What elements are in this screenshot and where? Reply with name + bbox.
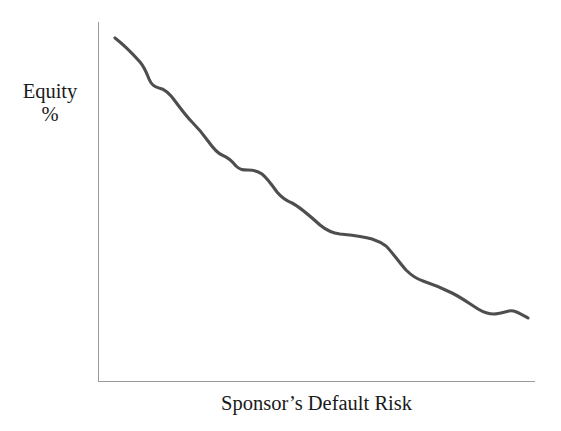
- y-axis-label: Equity %: [8, 80, 92, 126]
- equity-decline-curve: [115, 38, 528, 318]
- y-axis-label-line-2: %: [8, 103, 92, 126]
- y-axis-label-line-1: Equity: [8, 80, 92, 103]
- x-axis-label: Sponsor’s Default Risk: [98, 392, 535, 415]
- chart-canvas: [0, 0, 561, 431]
- chart-figure: Equity % Sponsor’s Default Risk: [0, 0, 561, 431]
